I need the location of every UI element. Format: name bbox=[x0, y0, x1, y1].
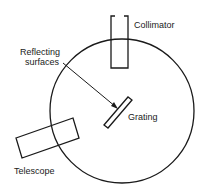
telescope-label: Telescope bbox=[14, 166, 55, 176]
grating-label: Grating bbox=[128, 112, 158, 122]
collimator-tube bbox=[111, 16, 128, 68]
reflecting-surfaces-label-line2: surfaces bbox=[25, 57, 60, 67]
spectrometer-diagram: Collimator Reflecting surfaces Grating T… bbox=[0, 0, 204, 196]
telescope-tube bbox=[16, 118, 79, 158]
collimator-label: Collimator bbox=[134, 20, 175, 30]
reflecting-surfaces-label-line1: Reflecting bbox=[20, 47, 60, 57]
reflecting-surfaces-pointer bbox=[63, 63, 118, 109]
